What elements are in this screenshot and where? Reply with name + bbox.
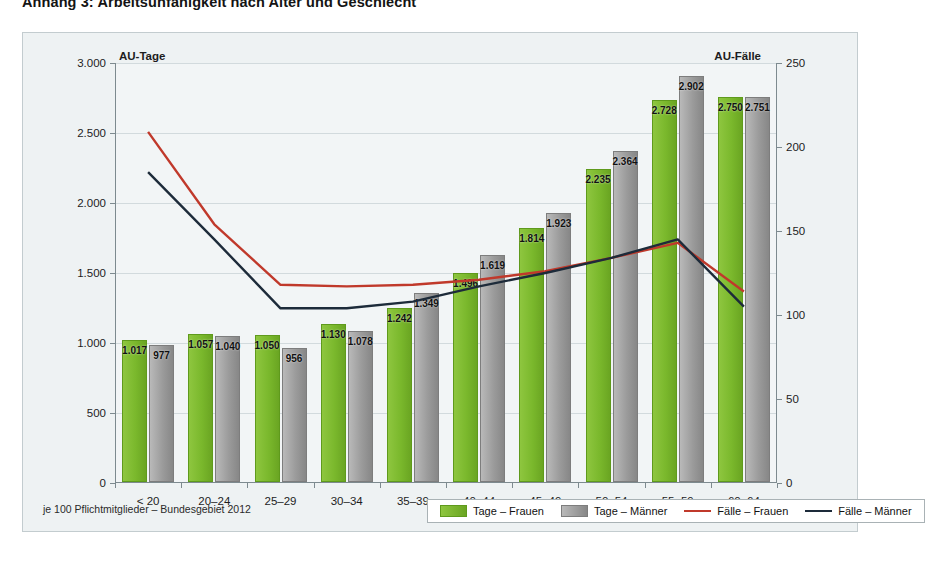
bar-value-label: 1.078 bbox=[348, 336, 373, 347]
gridline bbox=[115, 63, 777, 64]
legend-item[interactable]: Fälle – Frauen bbox=[684, 505, 788, 517]
bar-maenner[interactable]: 2.364 bbox=[613, 151, 638, 482]
bar-value-label: 2.364 bbox=[612, 156, 637, 167]
bar-frauen[interactable]: 2.750 bbox=[718, 97, 743, 482]
bar-maenner[interactable]: 2.902 bbox=[679, 76, 704, 482]
legend-item-label: Tage – Frauen bbox=[473, 505, 544, 517]
left-axis-tick bbox=[110, 273, 115, 274]
right-axis-title: AU-Fälle bbox=[714, 50, 761, 62]
x-axis-tick bbox=[711, 483, 712, 488]
x-axis-tick bbox=[380, 483, 381, 488]
legend-item[interactable]: Fälle – Männer bbox=[805, 505, 911, 517]
legend-item[interactable]: Tage – Männer bbox=[561, 505, 667, 517]
x-axis-tick bbox=[777, 483, 778, 488]
left-axis-tick-label: 0 bbox=[100, 477, 106, 489]
x-axis-tick bbox=[314, 483, 315, 488]
bar-group: 1.0571.04020–24 bbox=[188, 334, 240, 482]
bar-maenner[interactable]: 1.923 bbox=[546, 213, 571, 482]
bar-frauen[interactable]: 1.496 bbox=[453, 273, 478, 482]
chart-legend: Tage – FrauenTage – MännerFälle – Frauen… bbox=[427, 499, 925, 523]
bar-group: 1.1301.07830–34 bbox=[321, 324, 373, 482]
legend-line-swatch bbox=[684, 510, 711, 512]
bar-value-label: 1.057 bbox=[188, 339, 213, 350]
x-axis-tick bbox=[578, 483, 579, 488]
legend-bar-swatch bbox=[440, 505, 467, 517]
legend-bar-swatch bbox=[561, 505, 588, 517]
footnote: je 100 Pflichtmitglieder – Bundesgebiet … bbox=[43, 503, 251, 515]
bar-value-label: 1.496 bbox=[453, 278, 478, 289]
bar-value-label: 2.728 bbox=[652, 105, 677, 116]
bar-frauen[interactable]: 2.728 bbox=[652, 100, 677, 482]
right-axis-tick-label: 150 bbox=[786, 225, 805, 237]
left-axis-tick-label: 1.500 bbox=[77, 267, 106, 279]
left-axis-line bbox=[115, 63, 116, 483]
plot-area: 05001.0001.5002.0002.5003.000 0501001502… bbox=[115, 63, 777, 483]
right-axis-tick-label: 250 bbox=[786, 57, 805, 69]
right-axis-tick bbox=[777, 231, 782, 232]
bar-value-label: 2.902 bbox=[679, 81, 704, 92]
bar-value-label: 2.235 bbox=[585, 174, 610, 185]
bar-value-label: 1.050 bbox=[254, 340, 279, 351]
right-axis-tick bbox=[777, 147, 782, 148]
bar-maenner[interactable]: 2.751 bbox=[745, 97, 770, 482]
bar-value-label: 1.814 bbox=[519, 233, 544, 244]
bar-group: 1.017977< 20 bbox=[122, 340, 174, 482]
bar-group: 1.2421.34935–39 bbox=[387, 293, 439, 482]
bar-value-label: 977 bbox=[153, 350, 170, 361]
left-axis-tick-label: 1.000 bbox=[77, 337, 106, 349]
bar-frauen[interactable]: 1.242 bbox=[387, 308, 412, 482]
left-axis-title: AU-Tage bbox=[119, 50, 165, 62]
legend-item[interactable]: Tage – Frauen bbox=[440, 505, 544, 517]
x-axis-tick-label: 35–39 bbox=[397, 495, 429, 507]
left-axis-tick-label: 500 bbox=[87, 407, 106, 419]
x-axis-tick bbox=[247, 483, 248, 488]
bar-maenner[interactable]: 1.619 bbox=[480, 255, 505, 482]
bar-frauen[interactable]: 1.057 bbox=[188, 334, 213, 482]
x-axis-tick bbox=[115, 483, 116, 488]
right-axis-tick-label: 50 bbox=[786, 393, 799, 405]
bar-group: 2.7282.90255–59 bbox=[652, 76, 704, 482]
bar-group: 2.7502.75160–64 bbox=[718, 97, 770, 482]
x-axis-tick bbox=[512, 483, 513, 488]
bar-value-label: 1.242 bbox=[387, 313, 412, 324]
right-axis-tick-label: 100 bbox=[786, 309, 805, 321]
right-axis-line bbox=[776, 63, 777, 483]
x-axis-tick bbox=[645, 483, 646, 488]
bar-value-label: 1.923 bbox=[546, 218, 571, 229]
right-axis-tick bbox=[777, 315, 782, 316]
left-axis-tick bbox=[110, 413, 115, 414]
left-axis-tick bbox=[110, 133, 115, 134]
chart-frame: AU-Tage AU-Fälle 05001.0001.5002.0002.50… bbox=[22, 32, 858, 532]
left-axis-tick bbox=[110, 343, 115, 344]
left-axis-tick bbox=[110, 63, 115, 64]
bar-maenner[interactable]: 977 bbox=[149, 345, 174, 482]
bar-frauen[interactable]: 1.130 bbox=[321, 324, 346, 482]
bar-maenner[interactable]: 1.349 bbox=[414, 293, 439, 482]
bar-group: 2.2352.36450–54 bbox=[586, 151, 638, 482]
bar-frauen[interactable]: 1.814 bbox=[519, 228, 544, 482]
bar-maenner[interactable]: 956 bbox=[282, 348, 307, 482]
x-axis-tick-label: 30–34 bbox=[331, 495, 363, 507]
legend-item-label: Tage – Männer bbox=[594, 505, 667, 517]
bar-maenner[interactable]: 1.040 bbox=[215, 336, 240, 482]
bar-value-label: 1.040 bbox=[215, 341, 240, 352]
x-axis-tick bbox=[446, 483, 447, 488]
left-axis-tick bbox=[110, 203, 115, 204]
bar-frauen[interactable]: 1.017 bbox=[122, 340, 147, 482]
bar-value-label: 2.750 bbox=[718, 102, 743, 113]
bar-frauen[interactable]: 2.235 bbox=[586, 169, 611, 482]
bar-group: 1.05095625–29 bbox=[255, 335, 307, 482]
x-axis-tick-label: 25–29 bbox=[265, 495, 297, 507]
right-axis-tick bbox=[777, 399, 782, 400]
bar-group: 1.4961.61940–44 bbox=[453, 255, 505, 482]
bar-maenner[interactable]: 1.078 bbox=[348, 331, 373, 482]
left-axis-tick-label: 2.000 bbox=[77, 197, 106, 209]
legend-line-swatch bbox=[805, 510, 832, 512]
bar-value-label: 956 bbox=[286, 353, 303, 364]
right-axis-tick bbox=[777, 63, 782, 64]
page-title: Anhang 3: Arbeitsunfähigkeit nach Alter … bbox=[22, 0, 416, 10]
bar-group: 1.8141.92345–49 bbox=[519, 213, 571, 482]
x-axis-tick bbox=[181, 483, 182, 488]
bar-frauen[interactable]: 1.050 bbox=[255, 335, 280, 482]
right-axis-tick-label: 200 bbox=[786, 141, 805, 153]
